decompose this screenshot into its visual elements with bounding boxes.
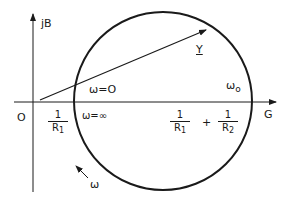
- locus-circle: [74, 12, 252, 190]
- fraction-denominator: R1: [48, 122, 68, 135]
- omega-zero-label: ω=O: [89, 84, 116, 95]
- fraction-numerator: 1: [218, 110, 238, 122]
- y-phasor-arrow: [40, 30, 206, 100]
- left-intercept-fraction: 1 R1: [48, 110, 68, 135]
- fraction-numerator: 1: [48, 110, 68, 122]
- omega-resonance-symbol: ω: [226, 79, 235, 92]
- admittance-locus-diagram: jB G O Y ω=O ω=∞ ωo ω 1 R1 1 R1 + 1 R2: [0, 0, 288, 200]
- omega-resonance-label: ωo: [226, 80, 241, 94]
- omega-infinity-label: ω=∞: [82, 111, 107, 121]
- right-intercept-term1: 1 R1: [170, 110, 190, 135]
- g-axis-label: G: [264, 109, 273, 120]
- y-phasor-label: Y: [196, 44, 203, 55]
- fraction-denominator: R1: [170, 122, 190, 135]
- fraction-denominator: R2: [218, 122, 238, 135]
- diagram-graphics: [0, 0, 288, 200]
- origin-label: O: [17, 112, 26, 123]
- omega-direction-arrow: [76, 166, 88, 178]
- plus-operator: +: [202, 117, 211, 128]
- jb-axis-label: jB: [41, 18, 52, 29]
- omega-resonance-subscript: o: [235, 84, 241, 94]
- right-intercept-term2: 1 R2: [218, 110, 238, 135]
- fraction-numerator: 1: [170, 110, 190, 122]
- omega-direction-label: ω: [90, 179, 99, 190]
